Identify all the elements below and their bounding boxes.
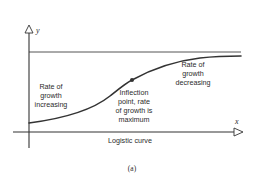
y-axis-label: y [35, 26, 40, 35]
panel-label: (a) [128, 164, 137, 173]
svg-text:growth: growth [182, 69, 204, 78]
figure-caption: Logistic curve [108, 136, 152, 145]
svg-text:point, rate: point, rate [118, 97, 150, 106]
annotation-rate-increasing: Rate of growth increasing [35, 82, 68, 109]
annotation-rate-decreasing: Rate of growth decreasing [175, 60, 210, 87]
svg-text:Inflection: Inflection [120, 88, 149, 97]
svg-text:Rate of: Rate of [39, 82, 62, 91]
svg-text:maximum: maximum [118, 115, 149, 124]
y-axis-arrow-icon [25, 25, 33, 33]
svg-text:growth: growth [40, 91, 62, 100]
svg-text:decreasing: decreasing [175, 78, 210, 87]
svg-text:Rate of: Rate of [181, 60, 204, 69]
svg-text:increasing: increasing [35, 100, 68, 109]
annotation-inflection-point: Inflection point, rate of growth is maxi… [116, 88, 153, 124]
x-axis-arrow-icon [234, 128, 243, 136]
inflection-point-marker [130, 78, 134, 82]
x-axis-label: x [234, 117, 239, 126]
svg-text:of growth is: of growth is [116, 106, 153, 115]
logistic-curve-figure: y x Rate of growth increasing Inflection… [0, 0, 256, 180]
